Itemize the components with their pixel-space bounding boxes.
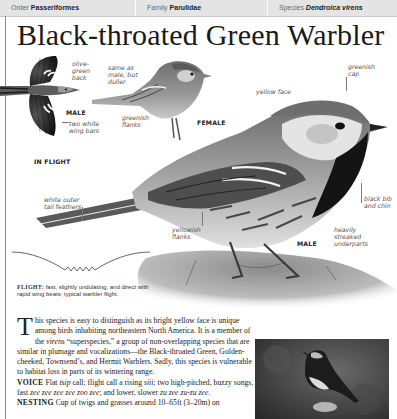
nesting-text: Cup of twigs and grasses around 10–65ft … (54, 398, 220, 407)
annotation-black-bib: black bib and chin (364, 195, 396, 209)
male-caption: MALE (297, 240, 317, 247)
species-description: This species is easy to distinguish as i… (17, 316, 259, 409)
voice-label: VOICE (17, 378, 44, 387)
leader-cap (346, 77, 347, 91)
intro-emphasis: virens (46, 337, 65, 346)
voice-song-slow: zu zee zu-zu zee. (160, 388, 210, 397)
taxonomy-order: Order Passeriformes (0, 0, 136, 16)
family-value: Parulidae (170, 4, 202, 11)
voice-song-fast: zee zee zee zee zoo zee (30, 388, 99, 397)
flight-description: FLIGHT: fast, slightly undulating, and d… (17, 284, 157, 299)
voice-text: ; and lower, slower (99, 388, 160, 397)
leader-tail (82, 207, 83, 221)
annotation-streaked-underparts: heavily streaked underparts (334, 226, 384, 247)
warbler-photo (255, 339, 389, 419)
taxonomy-species: Species Dendroica virens (268, 0, 397, 16)
annotation-yellowish-flanks: yellowish flanks (172, 226, 204, 240)
drop-cap: T (17, 317, 33, 337)
voice-flight-call: siii (144, 378, 153, 387)
photo-bird-silhouette (255, 339, 389, 419)
leader-flanks (202, 212, 203, 226)
voice-text: Flat (44, 378, 60, 387)
voice-call: tsip (59, 378, 70, 387)
family-label: Family (147, 4, 168, 11)
order-value: Passeriformes (31, 4, 79, 11)
voice-text: call; flight call a rising (70, 378, 143, 387)
annotation-greenish-cap: greenish cap (348, 63, 376, 77)
flight-path-diagram (10, 248, 160, 278)
flight-label: FLIGHT: (17, 284, 44, 290)
order-label: Order (11, 4, 29, 11)
page-title: Black-throated Green Warbler (17, 18, 384, 52)
leader-bib (361, 183, 362, 203)
nesting-label: NESTING (17, 398, 54, 407)
annotation-yellow-face: yellow face (256, 88, 296, 95)
annotation-white-outer-tail: white outer tail feathers (44, 196, 84, 210)
species-value: Dendroica virens (306, 4, 363, 11)
annotation-olive-green-back: olive-green back (72, 60, 94, 81)
species-label: Species (279, 4, 304, 11)
taxonomy-family: Family Parulidae (136, 0, 268, 16)
taxonomy-bar: Order Passeriformes Family Parulidae Spe… (0, 0, 397, 17)
